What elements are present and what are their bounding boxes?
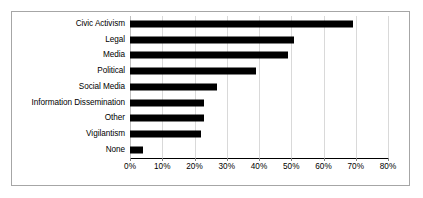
tick-mark-30 <box>227 158 228 161</box>
category-label: Civic Activism <box>76 20 125 28</box>
bar-row: Political <box>130 63 388 79</box>
category-label: None <box>106 146 125 154</box>
x-tick-label: 60% <box>315 163 331 171</box>
bar <box>130 52 288 59</box>
category-label: Information Dissemination <box>32 99 125 107</box>
x-tick-label: 10% <box>154 163 170 171</box>
x-tick-label: 0% <box>124 163 136 171</box>
gridline-80 <box>388 16 389 158</box>
bar <box>130 147 143 154</box>
bar <box>130 115 204 122</box>
bar-series: Civic ActivismLegalMediaPoliticalSocial … <box>130 16 388 158</box>
category-label: Social Media <box>79 83 125 91</box>
tick-mark-0 <box>130 158 131 161</box>
category-label: Vigilantism <box>86 130 125 138</box>
x-tick-label: 20% <box>186 163 202 171</box>
bar-row: Information Dissemination <box>130 95 388 111</box>
bar-row: Legal <box>130 32 388 48</box>
bar-row: Other <box>130 111 388 127</box>
bar <box>130 20 353 27</box>
tick-mark-50 <box>291 158 292 161</box>
plot-area: Civic ActivismLegalMediaPoliticalSocial … <box>130 16 388 158</box>
x-tick-label: 40% <box>251 163 267 171</box>
bar-row: None <box>130 142 388 158</box>
bar <box>130 68 256 75</box>
bar-row: Social Media <box>130 79 388 95</box>
bar <box>130 99 204 106</box>
x-tick-label: 50% <box>283 163 299 171</box>
plot-wrapper: Civic ActivismLegalMediaPoliticalSocial … <box>12 12 411 187</box>
category-label: Political <box>97 67 125 75</box>
bar-row: Media <box>130 48 388 64</box>
category-label: Legal <box>105 36 125 44</box>
x-tick-label: 70% <box>348 163 364 171</box>
tick-mark-80 <box>388 158 389 161</box>
x-tick-label: 30% <box>219 163 235 171</box>
bar-row: Vigilantism <box>130 126 388 142</box>
tick-mark-40 <box>259 158 260 161</box>
tick-mark-20 <box>195 158 196 161</box>
bar-row: Civic Activism <box>130 16 388 32</box>
bar <box>130 36 294 43</box>
category-label: Media <box>103 51 125 59</box>
x-tick-label: 80% <box>380 163 396 171</box>
tick-mark-60 <box>324 158 325 161</box>
bar <box>130 131 201 138</box>
category-label: Other <box>105 114 125 122</box>
tick-mark-70 <box>356 158 357 161</box>
bar <box>130 83 217 90</box>
tick-mark-10 <box>162 158 163 161</box>
chart-frame: Civic ActivismLegalMediaPoliticalSocial … <box>11 11 410 186</box>
